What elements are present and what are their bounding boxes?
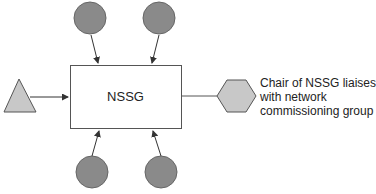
hexagon-note: Chair of NSSG liaises with network commi…	[260, 76, 370, 118]
left-triangle	[4, 79, 36, 112]
arrow-top-right	[152, 35, 159, 63]
arrow-bottom-right	[153, 131, 161, 156]
arrow-top-left	[91, 35, 98, 63]
top-left-circle	[74, 2, 106, 34]
top-right-circle	[143, 2, 175, 34]
right-hexagon	[217, 80, 256, 112]
note-line-3: commissioning group	[260, 104, 370, 118]
note-line-1: Chair of NSSG liaises	[260, 76, 370, 90]
arrow-bottom-left	[92, 131, 99, 156]
bottom-right-circle	[145, 156, 177, 188]
nssg-label: NSSG	[70, 65, 181, 128]
bottom-left-circle	[76, 156, 108, 188]
note-line-2: with network	[260, 90, 370, 104]
